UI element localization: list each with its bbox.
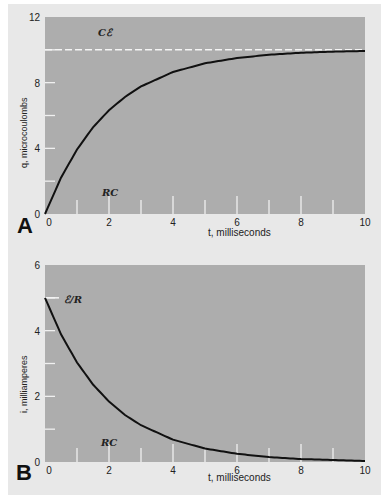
figure-page: 04812 0246810 Cℰ RC t, milliseconds q, m… bbox=[0, 0, 385, 499]
x-tick-label: 4 bbox=[170, 217, 176, 228]
current-curve bbox=[45, 298, 365, 461]
chart-current: 0246 0246810 ℰ/R RC t, milliseconds i, m… bbox=[16, 260, 371, 485]
tick-marks-charge bbox=[45, 50, 333, 214]
y-tick-label: 4 bbox=[34, 143, 40, 154]
y-tick-label: 2 bbox=[34, 391, 40, 402]
x-tick-label: 10 bbox=[359, 465, 371, 476]
y-tick-labels-charge: 04812 bbox=[29, 12, 41, 220]
x-axis-label: t, milliseconds bbox=[208, 472, 271, 483]
x-tick-label: 2 bbox=[106, 465, 112, 476]
x-tick-label: 8 bbox=[298, 217, 304, 228]
y-tick-label: 0 bbox=[34, 457, 40, 468]
y-tick-label: 12 bbox=[29, 12, 41, 23]
y-axis-label: q, microcoulombs bbox=[19, 97, 29, 168]
x-axis-label: t, milliseconds bbox=[208, 227, 271, 238]
x-tick-label: 0 bbox=[46, 217, 52, 228]
tick-marks-current bbox=[45, 298, 333, 462]
annotation-rc: RC bbox=[101, 187, 118, 198]
y-tick-label: 0 bbox=[34, 209, 40, 220]
annotation-c-emf: Cℰ bbox=[98, 27, 114, 38]
y-tick-labels-current: 0246 bbox=[34, 260, 40, 468]
annotation-emf-over-r: ℰ/R bbox=[64, 294, 82, 305]
x-tick-label: 2 bbox=[106, 217, 112, 228]
y-tick-label: 8 bbox=[34, 78, 40, 89]
chart-charge: 04812 0246810 Cℰ RC t, milliseconds q, m… bbox=[17, 12, 371, 238]
y-tick-label: 6 bbox=[34, 260, 40, 271]
charge-curve bbox=[45, 51, 365, 214]
annotation-rc: RC bbox=[100, 437, 117, 448]
panel-label-b: B bbox=[16, 460, 32, 485]
x-tick-label: 8 bbox=[298, 465, 304, 476]
x-tick-label: 0 bbox=[46, 465, 52, 476]
x-tick-label: 10 bbox=[359, 217, 371, 228]
y-axis-label: i, milliamperes bbox=[19, 355, 29, 413]
panel-label-a: A bbox=[17, 213, 33, 238]
x-tick-label: 4 bbox=[170, 465, 176, 476]
chart-overlay: 04812 0246810 Cℰ RC t, milliseconds q, m… bbox=[0, 0, 385, 499]
y-tick-label: 4 bbox=[34, 326, 40, 337]
